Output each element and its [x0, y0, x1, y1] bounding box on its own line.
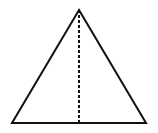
- triangle-diagram: [0, 0, 158, 133]
